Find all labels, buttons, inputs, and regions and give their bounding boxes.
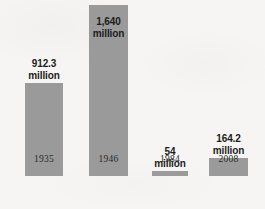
bar-unit-1935: million bbox=[28, 70, 60, 82]
bar-value-2008: 164.2 bbox=[213, 133, 245, 145]
bar-group-1984: 54 million 1984 bbox=[152, 171, 188, 176]
bar-group-1946: 1,640 million 1946 bbox=[89, 5, 128, 176]
x-tick-label-1946: 1946 bbox=[99, 154, 119, 164]
x-tick-label-1984: 1984 bbox=[160, 154, 180, 164]
bar-unit-1946: million bbox=[93, 28, 125, 40]
bar-chart: 912.3 million 1935 1,640 million 1946 54… bbox=[0, 0, 265, 209]
bar-value-label-1946: 1,640 million bbox=[93, 16, 125, 39]
bar-group-1935: 912.3 million 1935 bbox=[25, 83, 63, 176]
bar-1984 bbox=[152, 171, 188, 176]
x-tick-label-1935: 1935 bbox=[34, 154, 54, 164]
plot-area: 912.3 million 1935 1,640 million 1946 54… bbox=[0, 0, 265, 209]
bar-value-label-2008: 164.2 million bbox=[213, 133, 245, 156]
bar-group-2008: 164.2 million 2008 bbox=[209, 158, 248, 176]
x-tick-label-2008: 2008 bbox=[219, 154, 239, 164]
bar-value-label-1935: 912.3 million bbox=[28, 58, 60, 81]
bar-value-1946: 1,640 bbox=[93, 16, 125, 28]
bar-value-1935: 912.3 bbox=[28, 58, 60, 70]
